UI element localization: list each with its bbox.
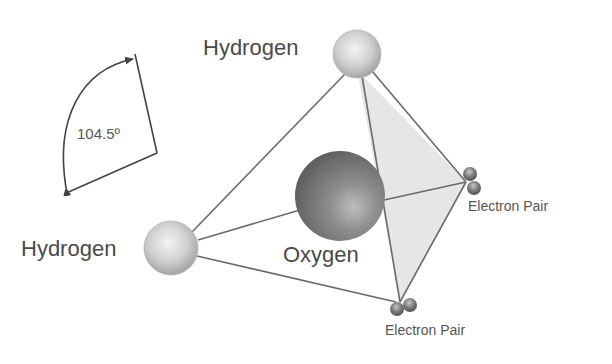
electron — [403, 298, 417, 312]
oxygen-atom — [295, 151, 385, 241]
water-molecule-diagram — [0, 0, 612, 364]
angle-leg-right — [135, 54, 157, 153]
angle-leg-bottom — [64, 153, 157, 194]
label-hydrogen-left: Hydrogen — [21, 236, 116, 262]
bond-oxygen-left-h — [198, 210, 300, 240]
label-electron-pair-right: Electron Pair — [468, 198, 548, 214]
hydrogen-atom-left — [144, 221, 198, 275]
label-hydrogen-top: Hydrogen — [203, 35, 298, 61]
bond-angle-indicator — [63, 54, 157, 194]
label-oxygen: Oxygen — [283, 242, 359, 268]
electron — [467, 181, 481, 195]
electron — [390, 302, 404, 316]
label-bond-angle: 104.5º — [77, 125, 120, 142]
electron — [463, 167, 477, 181]
label-electron-pair-bottom: Electron Pair — [385, 322, 465, 338]
hydrogen-atom-top — [333, 30, 381, 78]
electron-pair-bottom — [390, 298, 417, 316]
